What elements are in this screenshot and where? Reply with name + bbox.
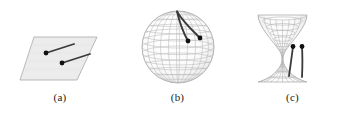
hyperboloid-illustration <box>235 0 350 90</box>
panel-flat-plane: (a) <box>0 0 120 114</box>
plane-surface <box>20 37 97 80</box>
geodesic-point-1 <box>44 51 49 56</box>
geodesic-point-1 <box>291 44 296 49</box>
flat-plane-illustration <box>0 0 120 90</box>
geodesic-point-1 <box>186 39 191 44</box>
geodesic-point-2 <box>300 44 305 49</box>
geodesic-curve-1 <box>289 47 293 77</box>
caption-c: (c) <box>235 90 350 104</box>
sphere-illustration <box>120 0 235 90</box>
figure-container: (a) <box>0 0 350 114</box>
panel-hyperboloid: (c) <box>235 0 350 114</box>
sphere-surface <box>142 11 214 83</box>
geodesic-point-2 <box>60 61 65 66</box>
caption-b: (b) <box>120 90 235 104</box>
caption-a: (a) <box>0 90 120 104</box>
panel-sphere: (b) <box>120 0 235 114</box>
geodesic-point-2 <box>198 36 203 41</box>
